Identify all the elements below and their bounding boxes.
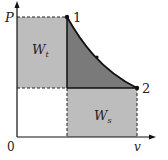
p-axis-arrow-icon bbox=[15, 1, 20, 8]
v-axis-label: v bbox=[134, 140, 141, 154]
point-2-label: 2 bbox=[142, 81, 150, 96]
pv-diagram: P v 0 1 2 Wt Ws bbox=[0, 0, 168, 160]
process-area bbox=[67, 17, 137, 88]
origin-label: 0 bbox=[7, 140, 15, 154]
point-2-marker bbox=[135, 86, 139, 90]
p-axis-label: P bbox=[4, 10, 14, 25]
point-1-marker bbox=[65, 15, 69, 19]
v-axis-arrow-icon bbox=[149, 135, 156, 140]
point-1-label: 1 bbox=[73, 10, 81, 25]
curve-midpoint-marker bbox=[95, 55, 98, 58]
